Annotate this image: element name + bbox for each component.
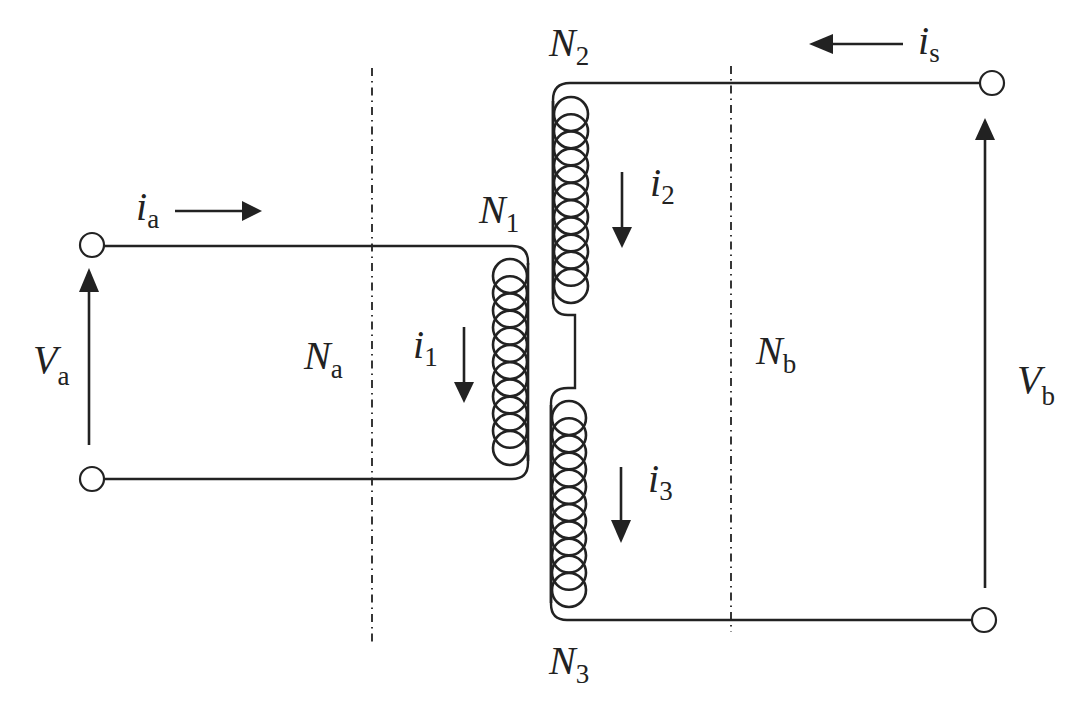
label-ia: ia [136, 184, 159, 234]
label-is: is [918, 18, 940, 68]
va-arrow-head [79, 268, 99, 292]
label-vb: Vb [1017, 357, 1055, 411]
is-arrow-head [809, 34, 833, 54]
ia-arrow-head [242, 201, 262, 221]
label-n3: N3 [548, 638, 589, 689]
coil-n1 [493, 259, 528, 465]
coil-n2 [553, 97, 588, 303]
vb-arrow-head [975, 118, 995, 140]
label-n2: N2 [548, 20, 589, 71]
terminal-a-bottom [80, 467, 104, 491]
label-na: Na [303, 333, 343, 384]
label-n1: N1 [478, 187, 519, 238]
i2-arrow-head [612, 227, 632, 248]
label-i1: i1 [413, 322, 438, 372]
terminal-b-bottom [972, 608, 996, 632]
terminal-b-top [980, 71, 1004, 95]
primary-bottom-wire [104, 455, 528, 479]
transformer-diagram: ia is i1 i2 i3 Va Vb Na Nb N1 N2 N3 [0, 0, 1083, 725]
i3-arrow-head [611, 520, 631, 543]
label-i3: i3 [648, 456, 673, 506]
label-va: Va [33, 337, 69, 391]
label-i2: i2 [650, 160, 675, 210]
i1-arrow-head [454, 382, 474, 403]
coil-n3 [551, 401, 586, 607]
terminal-a-top [80, 233, 104, 257]
label-nb: Nb [755, 328, 796, 379]
primary-top-wire [104, 246, 528, 265]
